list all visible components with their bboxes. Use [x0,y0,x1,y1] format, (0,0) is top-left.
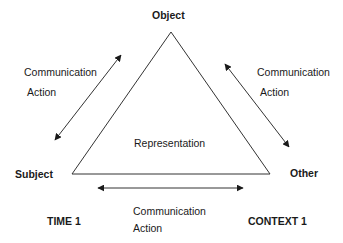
corner-label-context: CONTEXT 1 [248,215,307,227]
bottom-edge-label-line2: Action [133,222,162,234]
node-object: Object [152,9,185,21]
node-subject: Subject [15,168,53,180]
bottom-edge-label-line1: Communication [133,205,206,217]
node-other: Other [290,167,318,179]
left-edge-label-line1: Communication [24,66,97,78]
right-edge-label-line1: Communication [257,66,330,78]
triangle [72,32,270,174]
right-edge-label-line2: Action [260,86,289,98]
left-edge-label-line2: Action [27,86,56,98]
center-label-representation: Representation [134,137,205,149]
triangle-diagram: Object Subject Other Representation Comm… [0,0,343,243]
corner-label-time: TIME 1 [47,215,81,227]
